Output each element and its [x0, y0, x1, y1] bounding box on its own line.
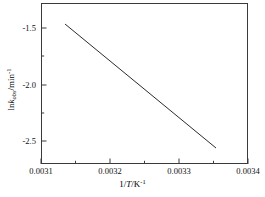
x-axis-title-unit: /K [131, 179, 140, 189]
x-tick-label-4: 0.0034 [236, 166, 259, 176]
x-tick-label-3: 0.0033 [167, 166, 190, 176]
y-tick-label-1: -1.5 [0, 23, 36, 33]
y-axis-major-ticks [41, 28, 47, 141]
x-tick-label-1: 0.0031 [29, 166, 52, 176]
y-axis-title-unit: /min [6, 74, 16, 91]
x-tick-label-2: 0.0032 [98, 166, 121, 176]
y-axis-title-prefix: ln [6, 104, 16, 111]
arrhenius-plot-figure: -1.5 -2.0 -2.5 0.0031 0.0032 0.0033 0.00… [0, 0, 265, 197]
y-tick-label-3: -2.5 [0, 136, 36, 146]
x-axis-title-exponent: -1 [140, 178, 145, 185]
y-axis-title-subscript: obs [10, 91, 17, 100]
x-axis-minor-ticks [76, 161, 214, 164]
data-series-arrhenius-fit [65, 24, 216, 148]
y-axis-title: lnkobs/min-1 [5, 50, 16, 130]
y-axis-title-exponent: -1 [5, 69, 12, 74]
y-axis-title-variable: k [6, 100, 16, 104]
x-axis-title: 1/T/K-1 [0, 178, 265, 189]
